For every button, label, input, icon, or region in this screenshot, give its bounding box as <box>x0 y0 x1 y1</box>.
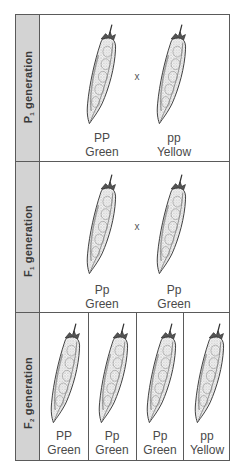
phenotype-label: Green <box>143 443 176 457</box>
genotype-label: Pp <box>153 429 168 443</box>
f2-generation-row: F2 generation PP Green Pp Green Pp Green… <box>16 313 229 460</box>
label-word: generation <box>21 357 33 415</box>
p1-label-column: P1 generation <box>16 15 40 161</box>
column-divider <box>183 313 184 460</box>
phenotype-label: Green <box>85 297 118 311</box>
p1-generation-label: P1 generation <box>21 51 34 124</box>
label-letter: P <box>21 116 33 124</box>
pea-pod-icon <box>144 319 180 429</box>
pea-pod-icon <box>154 170 190 280</box>
cross-symbol: x <box>135 71 140 82</box>
f1-generation-label: F1 generation <box>21 205 34 277</box>
phenotype-label: Green <box>85 145 118 159</box>
genotype-label: Pp <box>95 283 110 297</box>
p1-generation-row: P1 generation x PP Green pp Yellow <box>16 15 229 162</box>
label-subscript: 1 <box>28 267 34 271</box>
label-subscript: 1 <box>28 112 34 116</box>
punnett-diagram: P1 generation x PP Green pp Yellow F1 ge… <box>15 14 230 461</box>
phenotype-label: Green <box>47 443 80 457</box>
f1-generation-row: F1 generation x Pp Green Pp Green <box>16 162 229 313</box>
p1-content: x PP Green pp Yellow <box>40 15 229 161</box>
genotype-label: PP <box>94 131 110 145</box>
f2-generation-label: F2 generation <box>21 357 34 429</box>
phenotype-label: Green <box>95 443 128 457</box>
genotype-label: pp <box>167 131 180 145</box>
f2-content: PP Green Pp Green Pp Green pp Yellow <box>40 313 229 460</box>
pea-pod-icon <box>96 319 132 429</box>
column-divider <box>136 313 137 460</box>
pea-pod-icon <box>48 319 84 429</box>
cross-symbol: x <box>135 221 140 232</box>
pea-pod-icon <box>84 170 120 280</box>
f1-content: x Pp Green Pp Green <box>40 162 229 312</box>
genotype-label: pp <box>200 429 213 443</box>
genotype-label: Pp <box>105 429 120 443</box>
phenotype-label: Green <box>157 297 190 311</box>
label-letter: F <box>21 270 33 277</box>
genotype-label: PP <box>56 429 72 443</box>
phenotype-label: Yellow <box>157 145 191 159</box>
phenotype-label: Yellow <box>190 443 224 457</box>
genotype-label: Pp <box>167 283 182 297</box>
f1-label-column: F1 generation <box>16 162 40 312</box>
label-word: generation <box>21 205 33 263</box>
pea-pod-icon <box>192 319 228 429</box>
pea-pod-icon <box>84 20 120 130</box>
label-word: generation <box>21 51 33 109</box>
f2-label-column: F2 generation <box>16 313 40 460</box>
label-letter: F <box>21 422 33 429</box>
pea-pod-icon <box>154 20 190 130</box>
column-divider <box>88 313 89 460</box>
label-subscript: 2 <box>28 419 34 423</box>
